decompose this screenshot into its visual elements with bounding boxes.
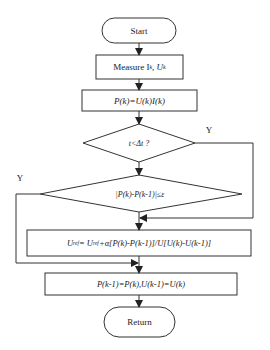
time-decision-label: t<Δt ?: [100, 134, 178, 152]
measure-label: Measure Ik, Uk: [96, 55, 183, 79]
measure-sep: , U: [152, 62, 163, 72]
measure-text: Measure I: [113, 62, 149, 72]
power-label: P(k)=U(k)I(k): [82, 90, 197, 111]
measure-sub-u: k: [163, 64, 166, 70]
time-decision-yes-label: Y: [203, 124, 215, 136]
start-label: Start: [102, 18, 176, 43]
update-post: +α[P(k)-P(k-1)]/U[U(k)-U(k-1)]: [99, 238, 211, 248]
power-change-decision-yes-label: Y: [14, 172, 26, 184]
flowchart-canvas: [0, 0, 270, 350]
update-mid: = U: [79, 238, 93, 248]
update-reference-label: Uref= Uref+α[P(k)-P(k-1)]/U[U(k)-U(k-1)]: [27, 230, 251, 256]
return-label: Return: [104, 307, 175, 337]
store-previous-label: P(k-1)=P(k),U(k-1)=U(k): [45, 273, 237, 295]
power-change-decision-label: |P(k)-P(k-1)|≤ε: [80, 185, 200, 203]
